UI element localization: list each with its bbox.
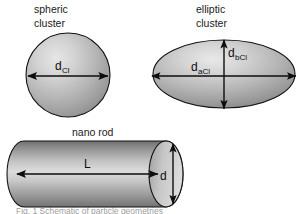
ellipse-minor-label-base: d [228,46,235,60]
ellipse-major-label-subscript: aCl [198,67,210,76]
ellipse-minor-label-subscript: bCl [235,53,247,62]
ellipse-major-label-base: d [191,60,198,74]
elliptic-cluster-panel: elliptic cluster d aCl d bCl [152,3,296,109]
sphere-diameter-label-base: d [55,59,62,73]
elliptic-cluster-title-line1: elliptic [196,3,225,15]
diagram-canvas: spheric cluster d Cl elliptic cluster d … [0,0,298,214]
sphere-diameter-label-subscript: Cl [62,66,70,75]
nanoparticle-geometry-figure: spheric cluster d Cl elliptic cluster d … [0,0,298,214]
cylinder-length-label: L [84,157,91,171]
spheric-cluster-title-line2: cluster [34,17,65,29]
spheric-cluster-title-line1: spheric [34,3,68,15]
elliptic-cluster-title-line2: cluster [196,17,227,29]
clipped-footer-caption: Fig. 1 Schematic of particle geometries [0,207,298,214]
sphere-shape [26,33,110,117]
nanorod-panel: nano rod L d [7,126,183,207]
nanorod-title: nano rod [72,126,114,138]
spheric-cluster-panel: spheric cluster d Cl [26,3,110,117]
cylinder-diameter-label: d [160,169,167,183]
